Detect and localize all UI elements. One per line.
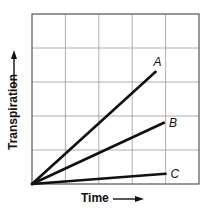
series-label-c: C bbox=[171, 167, 180, 181]
x-axis-arrow-icon bbox=[113, 196, 144, 202]
x-axis-title: Time bbox=[81, 191, 109, 205]
plot-frame bbox=[32, 14, 199, 184]
series-line-a bbox=[32, 72, 156, 184]
series-label-a: A bbox=[153, 55, 162, 69]
y-axis-title: Transpiration bbox=[6, 74, 20, 150]
y-axis-title-group: Transpiration bbox=[6, 74, 20, 150]
grid bbox=[32, 14, 199, 184]
series-labels: ABC bbox=[153, 55, 180, 181]
series-label-b: B bbox=[169, 116, 177, 130]
transpiration-chart: ABC Transpiration Time bbox=[0, 0, 208, 211]
